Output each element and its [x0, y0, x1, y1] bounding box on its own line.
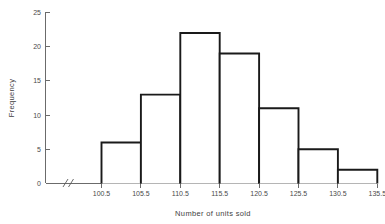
x-axis-title: Number of units sold — [175, 209, 251, 218]
x-tick-label: 110.5 — [172, 190, 189, 197]
x-tick-label: 135.5 — [369, 190, 385, 197]
y-tick-label: 0 — [37, 180, 41, 187]
x-tick-label: 105.5 — [132, 190, 150, 197]
y-tick-label: 15 — [33, 77, 41, 84]
x-tick-label: 125.5 — [290, 190, 308, 197]
histogram-bar — [102, 142, 141, 183]
histogram-canvas: 0 5 10 15 20 25 Frequency 100.5 — [0, 0, 385, 224]
y-axis-title: Frequency — [7, 79, 16, 118]
histogram-bar — [259, 108, 298, 183]
histogram-bar — [141, 95, 180, 184]
y-tick-label: 5 — [37, 146, 41, 153]
x-tick-label: 115.5 — [211, 190, 228, 197]
histogram-bar — [220, 54, 259, 184]
histogram-bar — [338, 170, 377, 184]
histogram-bar — [299, 149, 338, 183]
x-tick-label: 120.5 — [250, 190, 268, 197]
histogram-bar — [180, 33, 219, 183]
y-tick-label: 25 — [33, 9, 41, 16]
y-tick-label: 10 — [33, 112, 41, 119]
x-tick-label: 130.5 — [329, 190, 347, 197]
y-tick-label: 20 — [33, 43, 41, 50]
histogram-figure: 0 5 10 15 20 25 Frequency 100.5 — [0, 0, 385, 224]
x-tick-label: 100.5 — [93, 190, 111, 197]
